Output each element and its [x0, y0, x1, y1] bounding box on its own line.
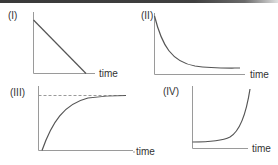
panel-iv-axes [193, 86, 249, 149]
panel-i: (I) time [8, 10, 118, 79]
panel-iii-dot [133, 151, 134, 152]
panel-iv-label: (IV) [163, 86, 179, 97]
panel-iii-label: (III) [10, 87, 25, 98]
panel-i-curve [34, 20, 87, 74]
panel-ii-axes [155, 13, 246, 75]
panel-ii-label: (II) [141, 10, 153, 21]
panel-i-axes [34, 12, 96, 74]
panel-iv-curve [193, 89, 251, 142]
panel-iv-x-label: time [252, 143, 271, 154]
panel-iii-x-label: time [136, 146, 155, 157]
panel-iii-curve [42, 96, 126, 151]
panel-iii: (III) time [10, 86, 155, 157]
panel-i-x-label: time [99, 68, 118, 79]
panel-ii-x-label: time [250, 69, 269, 80]
graphs-figure: (I) time (II) time (III) time (IV) time [0, 0, 278, 165]
panel-ii-curve [155, 16, 241, 68]
panel-i-label: (I) [8, 10, 17, 21]
panel-iv: (IV) time [163, 86, 271, 154]
panel-ii: (II) time [141, 10, 269, 80]
